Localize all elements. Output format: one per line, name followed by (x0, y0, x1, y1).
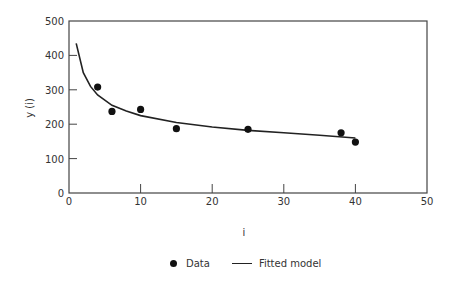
data-point (137, 106, 144, 113)
data-points (94, 83, 359, 145)
svg-text:50: 50 (421, 196, 434, 207)
svg-text:20: 20 (206, 196, 219, 207)
svg-text:400: 400 (45, 50, 64, 61)
svg-text:0: 0 (66, 196, 72, 207)
svg-text:30: 30 (277, 196, 290, 207)
svg-text:0: 0 (58, 188, 64, 199)
plot-frame (69, 21, 427, 193)
chart: 0100200300400500 01020304050 y (i) i (0, 0, 454, 293)
data-point (108, 108, 115, 115)
y-axis-ticks: 0100200300400500 (45, 16, 77, 199)
legend-item-data: Data (170, 258, 210, 269)
svg-text:100: 100 (45, 154, 64, 165)
svg-text:300: 300 (45, 85, 64, 96)
legend-data-label: Data (186, 258, 210, 269)
y-axis-label: y (i) (24, 98, 35, 118)
fitted-model-curve (76, 43, 355, 138)
legend-item-fit: Fitted model (232, 258, 321, 269)
data-point (352, 138, 359, 145)
data-point (337, 129, 344, 136)
data-point (94, 83, 101, 90)
legend-fit-label: Fitted model (259, 258, 321, 269)
svg-text:500: 500 (45, 16, 64, 27)
data-point (173, 125, 180, 132)
legend: Data Fitted model (170, 258, 343, 269)
data-marker-icon (170, 260, 177, 267)
svg-text:200: 200 (45, 119, 64, 130)
x-axis-ticks: 01020304050 (66, 184, 434, 207)
svg-text:40: 40 (349, 196, 362, 207)
line-marker-icon (232, 263, 252, 265)
data-point (244, 126, 251, 133)
x-axis-label: i (243, 227, 246, 238)
svg-text:10: 10 (134, 196, 147, 207)
